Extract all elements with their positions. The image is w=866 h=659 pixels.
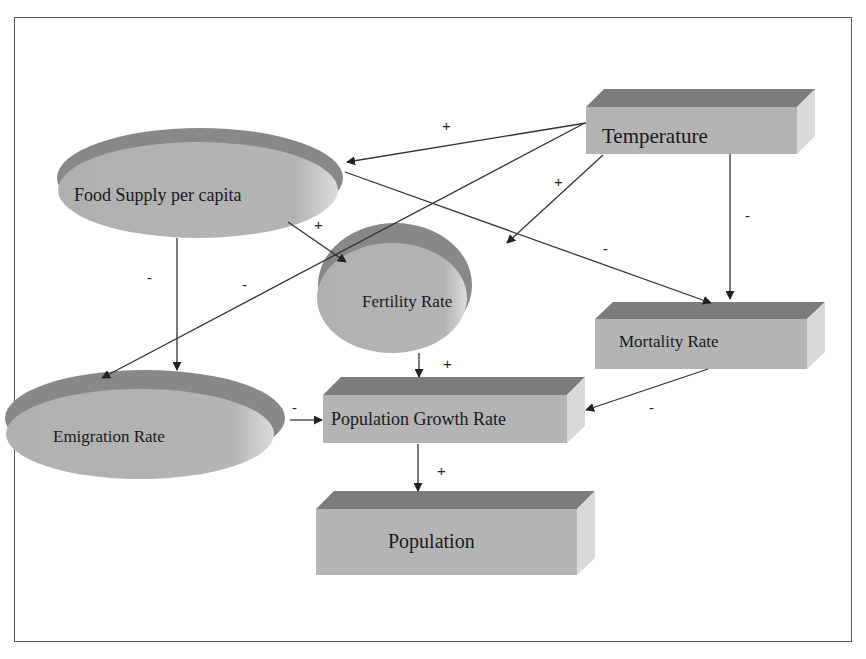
food-supply-label: Food Supply per capita (74, 185, 241, 205)
node-temperature: Temperature (586, 89, 815, 154)
sign-growth-population: + (437, 462, 446, 479)
temperature-label: Temperature (602, 124, 708, 148)
fertility-label: Fertility Rate (362, 292, 452, 311)
node-mortality: Mortality Rate (595, 302, 825, 369)
sign-food-supply-fertility: + (314, 216, 323, 233)
node-population-growth: Population Growth Rate (323, 377, 585, 443)
sign-fertility-growth: + (443, 355, 452, 372)
edge-temperature-food-supply (347, 123, 586, 162)
edge-temperature-fertility (507, 155, 603, 243)
sign-food-supply-emigration: - (147, 269, 152, 286)
emigration-label: Emigration Rate (53, 427, 165, 446)
edge-mortality-growth (586, 369, 708, 410)
sign-emigration-growth: - (292, 399, 297, 416)
causal-diagram: Temperature Food Supply per capita Ferti… (0, 0, 866, 659)
sign-mortality-growth: - (649, 399, 654, 416)
sign-temperature-fertility: + (554, 173, 563, 190)
node-food-supply: Food Supply per capita (57, 128, 343, 238)
node-population: Population (316, 491, 595, 575)
node-fertility: Fertility Rate (317, 223, 472, 353)
population-growth-label: Population Growth Rate (331, 409, 506, 429)
sign-temperature-emigration: - (242, 276, 247, 293)
sign-temperature-mortality: - (745, 207, 750, 224)
sign-temperature-food-supply: + (442, 117, 451, 134)
mortality-label: Mortality Rate (619, 332, 719, 351)
node-emigration: Emigration Rate (5, 370, 285, 479)
population-label: Population (388, 530, 475, 553)
sign-food-supply-mortality: - (603, 240, 608, 257)
